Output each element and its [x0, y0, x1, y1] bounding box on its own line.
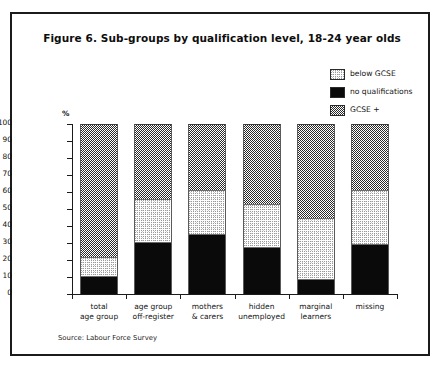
- x-tick-mark: [289, 295, 290, 299]
- x-axis-label: missing: [332, 302, 408, 312]
- bar-segment[interactable]: [243, 204, 281, 248]
- y-tick-label: 10: [0, 272, 12, 279]
- bar-segment[interactable]: [297, 218, 335, 281]
- bar-segment[interactable]: [351, 245, 389, 294]
- bar-segment[interactable]: [134, 199, 172, 243]
- y-tick-label: 30: [0, 238, 12, 245]
- bar-segment[interactable]: [134, 243, 172, 294]
- x-tick-mark: [235, 295, 236, 299]
- bar-column[interactable]: [351, 124, 389, 294]
- bar-column[interactable]: [80, 124, 118, 294]
- bar-segment[interactable]: [80, 277, 118, 294]
- x-tick-mark: [397, 295, 398, 299]
- y-tick-label: 90: [0, 136, 12, 143]
- bar-segment[interactable]: [80, 257, 118, 277]
- y-tick-label: 40: [0, 221, 12, 228]
- bar-segment[interactable]: [351, 190, 389, 244]
- x-axis-label-line: learners: [278, 312, 354, 322]
- bar-segment[interactable]: [188, 190, 226, 234]
- y-tick-label: 60: [0, 187, 12, 194]
- y-tick-label: 70: [0, 170, 12, 177]
- bar-segment[interactable]: [80, 124, 118, 257]
- y-tick-label: 100: [0, 119, 12, 126]
- x-tick-mark: [72, 295, 73, 299]
- bar-segment[interactable]: [243, 248, 281, 294]
- x-axis-label-line: missing: [332, 302, 408, 312]
- bar-column[interactable]: [243, 124, 281, 294]
- y-tick-label: 50: [0, 204, 12, 211]
- y-axis-unit-label: %: [62, 109, 69, 118]
- y-tick-label: 20: [0, 255, 12, 262]
- plot-wrap: % 0102030405060708090100 totalage groupa…: [12, 14, 432, 358]
- y-tick-label: 0: [0, 289, 12, 296]
- bar-column[interactable]: [297, 124, 335, 294]
- x-tick-mark: [343, 295, 344, 299]
- bar-segment[interactable]: [297, 280, 335, 294]
- bar-column[interactable]: [188, 124, 226, 294]
- figure-frame: Figure 6. Sub-groups by qualification le…: [10, 12, 430, 356]
- bar-segment[interactable]: [188, 124, 226, 190]
- bar-segment[interactable]: [188, 235, 226, 295]
- bar-segment[interactable]: [351, 124, 389, 190]
- source-note: Source: Labour Force Survey: [58, 334, 157, 342]
- bar-segment[interactable]: [297, 124, 335, 218]
- y-tick-label: 80: [0, 153, 12, 160]
- bar-segment[interactable]: [134, 124, 172, 199]
- bar-column[interactable]: [134, 124, 172, 294]
- figure-root: Figure 6. Sub-groups by qualification le…: [0, 0, 440, 369]
- x-tick-mark: [126, 295, 127, 299]
- plot-area: [72, 124, 397, 294]
- bar-segment[interactable]: [243, 124, 281, 204]
- x-tick-mark: [180, 295, 181, 299]
